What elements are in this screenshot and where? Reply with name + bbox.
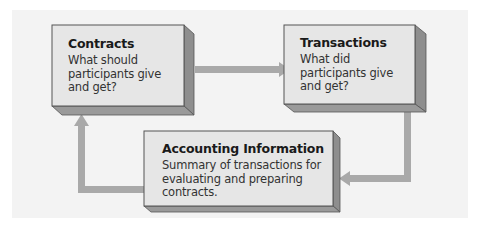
contracts-title: Contracts [68,36,180,51]
accounting-information-title: Accounting Information [162,141,332,156]
arrow-transactions-to-accounting [339,110,411,186]
transactions-description: What did participants give and get? [300,53,412,94]
transactions-node: Transactions What did participants give … [300,35,412,94]
transactions-title: Transactions [300,35,412,50]
arrow-accounting-to-contracts [74,114,146,193]
accounting-information-node: Accounting Information Summary of transa… [162,141,332,200]
contracts-node: Contracts What should participants give … [68,36,180,95]
arrow-contracts-to-transactions [195,62,290,77]
accounting-information-description: Summary of transactions for evaluating a… [162,159,332,200]
contracts-description: What should participants give and get? [68,54,180,95]
